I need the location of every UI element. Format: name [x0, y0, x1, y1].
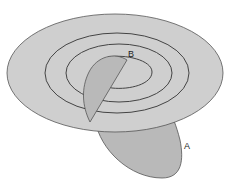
diagram-canvas: B A — [0, 0, 227, 186]
label-b: B — [128, 49, 134, 59]
label-a: A — [184, 141, 190, 151]
